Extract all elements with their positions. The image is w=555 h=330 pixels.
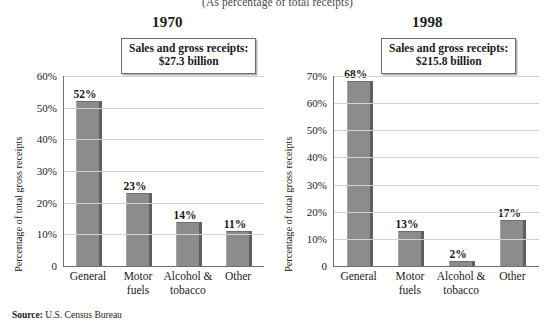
bar: 17% bbox=[500, 220, 526, 266]
plot-area: 68%13%2%17% bbox=[333, 76, 539, 267]
x-axis-tick-label: General bbox=[63, 268, 113, 298]
y-axis-tick-label: 40% bbox=[37, 133, 57, 145]
callout-box-1970: Sales and gross receipts: $27.3 billion bbox=[121, 38, 256, 74]
chart-panel-1970: 1970 Sales and gross receipts: $27.3 bil… bbox=[0, 14, 280, 304]
y-axis-tick-label: 10% bbox=[37, 228, 57, 240]
bar-value-label: 17% bbox=[498, 207, 521, 219]
y-axis-tick-label: 10% bbox=[307, 233, 327, 245]
gridline bbox=[64, 76, 264, 77]
bar-value-label: 13% bbox=[395, 218, 418, 230]
bar-value-label: 14% bbox=[174, 209, 197, 221]
bar: 11% bbox=[226, 231, 252, 266]
gridline bbox=[334, 76, 539, 77]
gridline bbox=[64, 139, 264, 140]
gridline bbox=[334, 212, 539, 213]
x-axis-tick-labels: GeneralMotor fuelsAlcohol & tobaccoOther bbox=[333, 268, 538, 298]
bar: 2% bbox=[449, 261, 475, 266]
callout-line-1: Sales and gross receipts: bbox=[129, 42, 248, 55]
bar-slot: 17% bbox=[488, 76, 539, 266]
bar: 23% bbox=[126, 193, 152, 266]
gridline bbox=[334, 157, 539, 158]
gridline bbox=[334, 239, 539, 240]
source-text: U.S. Census Bureau bbox=[43, 310, 122, 320]
plot-wrapper: 010%20%30%40%50%60% 52%23%14%11% General… bbox=[28, 76, 276, 304]
chart-panel-1998: 1998 Sales and gross receipts: $215.8 bi… bbox=[275, 14, 555, 304]
y-axis-title: Percentage of total gross receipts bbox=[283, 137, 294, 272]
y-axis-tick-labels: 010%20%30%40%50%60%70% bbox=[298, 76, 331, 266]
x-axis-tick-label: General bbox=[333, 268, 384, 298]
y-axis-tick-label: 20% bbox=[307, 206, 327, 218]
x-axis-tick-label: Other bbox=[213, 268, 263, 298]
bar-value-label: 2% bbox=[450, 248, 467, 260]
bar-slot: 68% bbox=[334, 76, 385, 266]
y-axis-tick-label: 0 bbox=[322, 260, 328, 272]
x-axis-tick-label: Motor fuels bbox=[113, 268, 163, 298]
x-axis-tick-label: Motor fuels bbox=[384, 268, 435, 298]
gridline bbox=[64, 171, 264, 172]
y-axis-tick-label: 60% bbox=[307, 97, 327, 109]
callout-line-2: $215.8 billion bbox=[389, 55, 508, 68]
y-axis-tick-label: 50% bbox=[37, 102, 57, 114]
x-axis-tick-label: Alcohol & tobacco bbox=[436, 268, 487, 298]
gridline bbox=[334, 185, 539, 186]
bar-group: 68%13%2%17% bbox=[334, 76, 539, 266]
y-axis-tick-label: 70% bbox=[307, 70, 327, 82]
y-axis-tick-labels: 010%20%30%40%50%60% bbox=[28, 76, 61, 266]
x-axis-tick-labels: GeneralMotor fuelsAlcohol & tobaccoOther bbox=[63, 268, 263, 298]
figure-subtitle: (As percentage of total receipts) bbox=[0, 0, 555, 8]
panel-year-heading: 1998 bbox=[412, 14, 443, 31]
y-axis-tick-label: 40% bbox=[307, 151, 327, 163]
bar: 13% bbox=[398, 231, 424, 266]
x-axis-tick-label: Other bbox=[487, 268, 538, 298]
bar: 52% bbox=[76, 101, 102, 266]
gridline bbox=[334, 130, 539, 131]
source-label: Source: bbox=[12, 310, 43, 320]
y-axis-tick-label: 50% bbox=[307, 124, 327, 136]
bar: 14% bbox=[176, 222, 202, 266]
y-axis-tick-label: 20% bbox=[37, 197, 57, 209]
gridline bbox=[64, 203, 264, 204]
panel-year-heading: 1970 bbox=[152, 14, 183, 31]
callout-line-2: $27.3 billion bbox=[129, 55, 248, 68]
callout-line-1: Sales and gross receipts: bbox=[389, 42, 508, 55]
bar-value-label: 52% bbox=[74, 88, 97, 100]
gridline bbox=[64, 234, 264, 235]
gridline bbox=[64, 108, 264, 109]
y-axis-tick-label: 0 bbox=[52, 260, 58, 272]
x-axis-tick-label: Alcohol & tobacco bbox=[163, 268, 213, 298]
bar-value-label: 68% bbox=[344, 68, 367, 80]
bar-slot: 2% bbox=[437, 76, 488, 266]
plot-wrapper: 010%20%30%40%50%60%70% 68%13%2%17% Gener… bbox=[298, 76, 550, 304]
gridline bbox=[334, 103, 539, 104]
bar-value-label: 23% bbox=[124, 180, 147, 192]
y-axis-tick-label: 60% bbox=[37, 70, 57, 82]
y-axis-title: Percentage of total gross receipts bbox=[13, 137, 24, 272]
y-axis-tick-label: 30% bbox=[37, 165, 57, 177]
callout-box-1998: Sales and gross receipts: $215.8 billion bbox=[381, 38, 516, 74]
bar-slot: 13% bbox=[385, 76, 436, 266]
bar-value-label: 11% bbox=[224, 218, 246, 230]
plot-area: 52%23%14%11% bbox=[63, 76, 264, 267]
source-line: Source: U.S. Census Bureau bbox=[12, 310, 122, 320]
y-axis-tick-label: 30% bbox=[307, 179, 327, 191]
